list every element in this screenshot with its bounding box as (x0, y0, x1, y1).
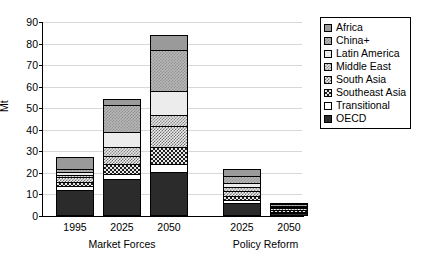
y-axis-tick (39, 65, 43, 66)
x-axis-tick-label: 2050 (157, 221, 180, 233)
bar-segment[interactable] (150, 35, 188, 50)
y-axis-tick-label: 0 (32, 210, 38, 222)
legend-item[interactable]: Latin America (324, 47, 406, 60)
y-axis-tick (39, 173, 43, 174)
bar-segment[interactable] (150, 164, 188, 172)
bar-segment[interactable] (150, 172, 188, 216)
y-axis-tick-label: 70 (26, 59, 38, 71)
legend-swatch-icon (324, 24, 332, 32)
bar-segment[interactable] (223, 169, 261, 177)
legend-swatch-icon (324, 37, 332, 45)
y-axis-tick-label: 20 (26, 167, 38, 179)
legend-swatch-icon (324, 89, 332, 97)
legend-item-label: Latin America (336, 48, 400, 59)
y-axis-tick (39, 216, 43, 217)
gridline (43, 22, 302, 23)
legend-item-label: South Asia (336, 74, 386, 85)
bar-segment[interactable] (103, 105, 141, 132)
legend-item-label: OECD (336, 113, 366, 124)
legend-swatch-icon (324, 102, 332, 110)
bar-segment[interactable] (150, 126, 188, 148)
legend-swatch-icon (324, 50, 332, 58)
y-axis-tick (39, 151, 43, 152)
y-axis-tick-label: 40 (26, 124, 38, 136)
x-axis-line (42, 216, 304, 217)
y-axis-tick-label: 50 (26, 102, 38, 114)
legend-swatch-icon (324, 76, 332, 84)
legend-item[interactable]: Transitional (324, 99, 406, 112)
y-axis-tick (39, 22, 43, 23)
legend-item[interactable]: Middle East (324, 60, 406, 73)
chart-legend: AfricaChina+Latin AmericaMiddle EastSout… (320, 17, 411, 129)
bar-segment[interactable] (270, 213, 308, 216)
y-axis-tick-label: 80 (26, 38, 38, 50)
legend-item-label: Transitional (336, 100, 390, 111)
bar-segment[interactable] (150, 50, 188, 91)
x-axis-tick-label: 1995 (63, 221, 86, 233)
y-axis-tick (39, 108, 43, 109)
bar-segment[interactable] (150, 147, 188, 164)
legend-swatch-icon (324, 63, 332, 71)
legend-item[interactable]: China+ (324, 34, 406, 47)
bar-segment[interactable] (103, 179, 141, 216)
bar-stack[interactable] (103, 99, 141, 216)
legend-item[interactable]: Africa (324, 21, 406, 34)
bar-segment[interactable] (103, 156, 141, 165)
bar-stack[interactable] (150, 35, 188, 216)
y-axis-tick-label: 60 (26, 81, 38, 93)
y-axis-tick-label: 90 (26, 16, 38, 28)
legend-item-label: Middle East (336, 61, 391, 72)
x-axis-tick-label: 2050 (277, 221, 300, 233)
y-axis-tick (39, 194, 43, 195)
bar-segment[interactable] (103, 132, 141, 147)
y-axis-tick (39, 87, 43, 88)
y-axis-tick-label: 10 (26, 188, 38, 200)
y-axis-tick-label: 30 (26, 145, 38, 157)
x-axis-tick-label: 2025 (110, 221, 133, 233)
bar-stack[interactable] (223, 169, 261, 216)
chart-figure: Mt 0102030405060708090 AfricaChina+Latin… (0, 0, 423, 267)
y-axis-tick (39, 44, 43, 45)
legend-item-label: China+ (336, 35, 370, 46)
bar-segment[interactable] (150, 115, 188, 126)
bar-stack[interactable] (270, 203, 308, 216)
bar-segment[interactable] (223, 203, 261, 216)
bar-segment[interactable] (150, 91, 188, 115)
legend-item-label: Africa (336, 22, 363, 33)
x-axis-group-label: Policy Reform (233, 238, 298, 250)
bar-segment[interactable] (103, 164, 141, 174)
bar-stack[interactable] (56, 157, 94, 216)
legend-item[interactable]: OECD (324, 112, 406, 125)
bar-segment[interactable] (103, 147, 141, 156)
bar-segment[interactable] (56, 190, 94, 216)
legend-item-label: Southeast Asia (336, 87, 406, 98)
bar-segment[interactable] (56, 157, 94, 169)
y-axis-tick-labels: 0102030405060708090 (0, 22, 38, 217)
x-axis-group-label: Market Forces (88, 238, 155, 250)
y-axis-tick (39, 130, 43, 131)
legend-item[interactable]: Southeast Asia (324, 86, 406, 99)
x-axis-tick-label: 2025 (230, 221, 253, 233)
legend-item[interactable]: South Asia (324, 73, 406, 86)
plot-area (43, 22, 302, 216)
legend-swatch-icon (324, 115, 332, 123)
